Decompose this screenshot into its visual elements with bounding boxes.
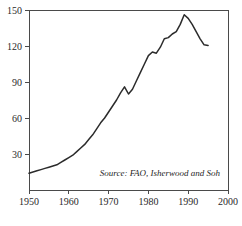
data-line-fertilizer-consumption	[29, 15, 208, 173]
y-tick-label: 120	[7, 41, 22, 52]
x-tick-label: 1990	[178, 196, 198, 207]
y-tick-label: 90	[12, 77, 22, 88]
series-group	[29, 15, 208, 173]
y-tick-label: 60	[12, 113, 22, 124]
y-tick-label: 150	[7, 5, 22, 16]
y-axis-ticks: 306090120150	[7, 5, 29, 160]
x-axis-ticks: 195019601970198019902000	[19, 190, 238, 207]
x-tick-label: 1960	[59, 196, 79, 207]
x-tick-label: 1970	[99, 196, 119, 207]
source-note: Source: FAO, Isherwood and Soh	[100, 168, 221, 178]
x-tick-label: 1980	[138, 196, 158, 207]
chart-figure: 306090120150 195019601970198019902000 So…	[0, 0, 242, 226]
line-chart-plot: 306090120150 195019601970198019902000 So…	[0, 0, 242, 226]
y-tick-label: 30	[12, 149, 22, 160]
x-tick-label: 2000	[218, 196, 238, 207]
x-tick-label: 1950	[19, 196, 39, 207]
